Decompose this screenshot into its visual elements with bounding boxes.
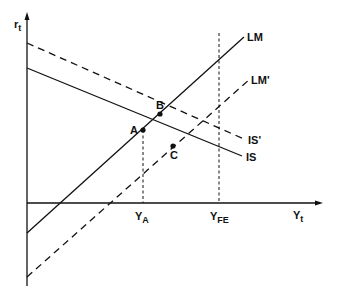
y-axis-label: rt xyxy=(14,18,21,33)
y-axis-arrow-icon xyxy=(25,12,30,20)
x-axis-arrow-icon xyxy=(315,201,323,206)
point-a xyxy=(140,127,145,132)
is-curve xyxy=(27,68,242,156)
lm-label: LM xyxy=(247,31,263,43)
ya-label: YA xyxy=(135,210,149,225)
point-c xyxy=(170,143,175,148)
point-a-label: A xyxy=(130,124,138,136)
yfe-label: YFE xyxy=(210,210,229,225)
x-axis-label: Yt xyxy=(293,209,303,224)
is-lm-diagram: rt Yt LM LM' IS IS' A B C YA YFE xyxy=(0,0,339,295)
is-prime-label: IS' xyxy=(248,134,261,146)
lm-prime-label: LM' xyxy=(251,74,270,86)
point-b-label: B xyxy=(156,99,164,111)
is-label: IS xyxy=(246,151,256,163)
point-c-label: C xyxy=(170,149,178,161)
point-b xyxy=(157,111,162,116)
lm-prime-curve xyxy=(27,79,250,277)
